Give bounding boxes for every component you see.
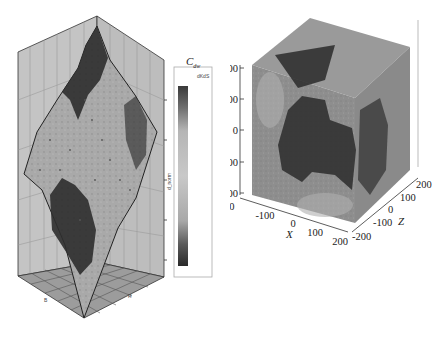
z-axis-label: Z — [398, 215, 405, 227]
z-tick: 0 — [388, 204, 393, 215]
w-tick: -100 — [230, 157, 238, 168]
colorbar-title: Cdw — [186, 55, 200, 69]
x-tick: -100 — [255, 210, 274, 221]
w-tick: 0 — [233, 125, 238, 136]
w-tick: 200 — [230, 63, 238, 74]
z-tick: -100 — [373, 217, 392, 228]
colorbar-gradient — [178, 86, 188, 266]
x-tick: 100 — [307, 227, 323, 238]
z-tick: 200 — [416, 179, 432, 190]
colorbar-label: dKdS — [197, 73, 210, 79]
floor-label-b: B — [44, 297, 48, 303]
cube-plot-panel: 200 100 0 -100 -200 W -200 -100 0 100 20… — [230, 0, 446, 337]
x-tick: 200 — [332, 236, 348, 247]
z-tick: -200 — [352, 231, 371, 242]
surface-plot: d_norm B R dKdS — [0, 0, 230, 337]
z-tick: 100 — [400, 192, 416, 203]
w-tick: 100 — [230, 94, 238, 105]
floor-label-r: R — [128, 293, 132, 299]
z-axis-label: d_norm — [166, 173, 172, 190]
w-tick: -200 — [230, 188, 238, 199]
surface-plot-panel: d_norm B R dKdS Cdw — [0, 0, 230, 337]
x-axis-label: X — [285, 228, 294, 240]
x-tick: -200 — [230, 201, 235, 212]
cube-plot: 200 100 0 -100 -200 W -200 -100 0 100 20… — [230, 0, 446, 337]
